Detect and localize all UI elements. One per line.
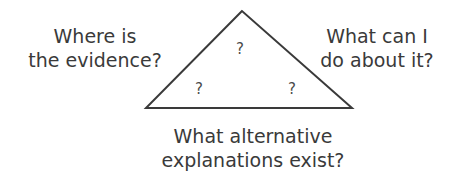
- bottom-label-line-2: explanations exist?: [148, 148, 358, 172]
- bottom-label: What alternative explanations exist?: [148, 124, 358, 172]
- left-label-line-1: Where is: [20, 24, 170, 48]
- question-mark-bottom-left: ?: [195, 80, 203, 98]
- question-mark-top: ?: [236, 40, 244, 58]
- left-label: Where is the evidence?: [20, 24, 170, 72]
- bottom-label-line-1: What alternative: [148, 124, 358, 148]
- question-mark-bottom-right: ?: [288, 80, 296, 98]
- right-label: What can I do about it?: [307, 24, 447, 72]
- right-label-line-1: What can I: [307, 24, 447, 48]
- right-label-line-2: do about it?: [307, 48, 447, 72]
- left-label-line-2: the evidence?: [20, 48, 170, 72]
